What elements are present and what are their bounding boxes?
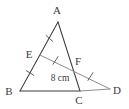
segment-CD (80, 89, 110, 91)
label-point-D: D (113, 84, 121, 96)
geometry-canvas: A B C D E F 8 cm (0, 0, 129, 109)
tick-EB (26, 71, 34, 76)
label-point-A: A (53, 4, 61, 16)
label-length-EF: 8 cm (51, 73, 70, 83)
label-point-F: F (75, 55, 81, 67)
geometry-figure: A B C D E F 8 cm (0, 0, 129, 109)
label-point-C: C (75, 94, 82, 106)
label-point-B: B (5, 85, 12, 97)
label-point-E: E (26, 48, 33, 60)
